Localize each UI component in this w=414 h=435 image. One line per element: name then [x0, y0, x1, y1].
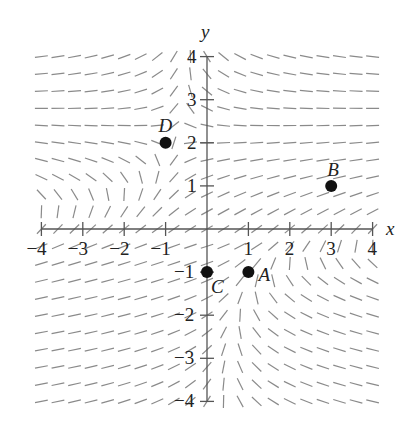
slope-segment: [252, 397, 262, 406]
slope-segment: [320, 258, 326, 270]
slope-segment: [35, 262, 47, 266]
slope-segment: [334, 277, 345, 284]
slope-segment: [284, 381, 296, 387]
y-tick-label: −4: [174, 391, 194, 410]
slope-segment: [35, 91, 48, 92]
slope-segment: [317, 295, 329, 301]
slope-segment: [52, 244, 64, 249]
slope-segment: [156, 171, 159, 184]
slope-segment: [151, 296, 163, 300]
slope-segment: [51, 91, 64, 92]
y-axis-label: y: [201, 22, 209, 41]
slope-segment: [137, 207, 145, 217]
slope-segment: [284, 209, 295, 215]
slope-segment: [54, 189, 62, 199]
slope-segment: [305, 257, 308, 270]
slope-segment: [120, 172, 127, 183]
slope-segment: [172, 137, 176, 149]
slope-segment: [68, 262, 80, 266]
slope-segment: [238, 344, 242, 356]
slope-segment: [85, 400, 98, 403]
slope-segment: [185, 208, 196, 215]
point-A: [242, 266, 254, 278]
slope-segment: [85, 158, 97, 162]
slope-segment: [317, 382, 329, 386]
slope-segment: [218, 209, 229, 215]
slope-segment: [52, 297, 65, 300]
slope-segment: [350, 73, 363, 74]
slope-segment: [366, 331, 379, 334]
slope-segment: [68, 314, 81, 317]
slope-segment: [285, 294, 295, 302]
slope-segment: [317, 365, 329, 369]
y-tick-label: 1: [187, 176, 197, 195]
x-axis-label: x: [386, 219, 394, 238]
slope-segment: [333, 313, 345, 317]
x-tick-label: 2: [285, 239, 295, 258]
slope-segment: [366, 348, 379, 351]
slope-segment: [68, 348, 81, 351]
y-tick-label: −1: [174, 262, 194, 281]
slope-segment: [286, 275, 293, 286]
slope-segment: [300, 142, 313, 143]
y-tick-label: 2: [187, 133, 197, 152]
slope-segment: [85, 314, 98, 317]
slope-segment: [250, 108, 263, 110]
slope-segment: [268, 209, 279, 215]
slope-segment: [366, 296, 378, 300]
slope-segment: [300, 176, 313, 179]
slope-segment: [234, 71, 246, 76]
slope-segment: [222, 344, 226, 356]
slope-segment: [152, 70, 163, 77]
slope-segment: [85, 90, 98, 91]
slope-segment: [267, 72, 280, 75]
slope-segment: [220, 310, 228, 320]
slope-segment: [367, 278, 379, 284]
slope-segment: [366, 125, 379, 126]
slope-segment: [217, 159, 230, 161]
slope-segment: [68, 142, 81, 144]
slope-segment: [350, 400, 363, 403]
slope-segment: [170, 155, 178, 166]
slope-segment: [300, 159, 313, 161]
point-label-D: D: [159, 116, 173, 135]
slope-segment: [154, 189, 161, 200]
slope-segment: [118, 296, 131, 299]
slope-segment: [68, 55, 81, 57]
slope-segment: [333, 56, 346, 58]
slope-segment: [234, 142, 247, 143]
slope-segment: [238, 292, 243, 304]
slope-segment: [333, 382, 345, 386]
slope-segment: [101, 400, 114, 404]
slope-segment: [68, 331, 81, 334]
slope-segment: [251, 54, 263, 59]
slope-segment: [169, 208, 179, 216]
slope-segment: [234, 125, 247, 126]
point-label-B: B: [327, 160, 339, 179]
slope-segment: [68, 400, 81, 403]
slope-segment: [253, 310, 259, 321]
slope-segment: [284, 176, 297, 179]
slope-segment: [350, 331, 362, 335]
slope-segment: [318, 277, 328, 285]
slope-segment: [251, 243, 262, 250]
slope-segment: [333, 400, 345, 404]
slope-segment: [355, 240, 357, 253]
slope-segment: [35, 56, 48, 58]
slope-segment: [118, 90, 131, 93]
slope-segment: [267, 159, 280, 161]
slope-segment: [284, 347, 296, 353]
slope-segment: [169, 190, 178, 199]
slope-segment: [101, 331, 114, 334]
slope-segment: [267, 108, 280, 109]
slope-segment: [267, 192, 279, 197]
slope-segment: [170, 86, 178, 97]
slope-segment: [68, 383, 81, 386]
point-B: [325, 180, 337, 192]
slope-segment: [106, 188, 108, 201]
slope-segment: [85, 331, 98, 334]
slope-segment: [118, 72, 130, 76]
slope-segment: [350, 296, 362, 301]
slope-segment: [185, 380, 195, 388]
slope-segment: [366, 176, 379, 179]
